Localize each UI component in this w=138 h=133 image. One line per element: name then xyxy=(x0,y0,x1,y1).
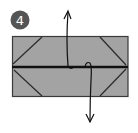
step-number: 4 xyxy=(16,13,24,28)
step-badge: 4 xyxy=(11,11,30,30)
origami-step-diagram: 4 xyxy=(0,0,138,133)
folded-paper xyxy=(12,37,128,97)
